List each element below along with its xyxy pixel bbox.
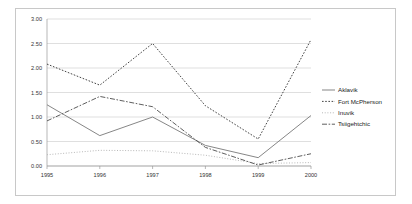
y-axis-tick-label: 1.50 <box>31 90 42 96</box>
y-axis-tick-label: 0.00 <box>31 163 42 169</box>
legend-label-tsiigehtchic: Tsiigehtchic <box>338 120 370 127</box>
line-chart: 0.000.501.001.502.002.503.00199519961997… <box>0 0 412 204</box>
chart-svg: 0.000.501.001.502.002.503.00199519961997… <box>0 0 412 204</box>
x-axis-tick-label: 2000 <box>305 172 317 178</box>
legend-label-aklavik: Aklavik <box>338 86 359 93</box>
x-axis-tick-label: 1995 <box>41 172 53 178</box>
x-axis-tick-label: 1999 <box>252 172 264 178</box>
y-axis-tick-label: 2.50 <box>31 41 42 47</box>
legend-label-inuvik: Inuvik <box>338 109 355 116</box>
x-axis-tick-label: 1998 <box>199 172 211 178</box>
y-axis-tick-label: 1.00 <box>31 114 42 120</box>
series-line-aklavik <box>47 105 311 158</box>
series-line-fort-mcpherson <box>47 40 311 139</box>
series-line-inuvik <box>47 150 311 163</box>
y-axis-tick-label: 0.50 <box>31 139 42 145</box>
x-axis-tick-label: 1996 <box>94 172 106 178</box>
y-axis-tick-label: 2.00 <box>31 65 42 71</box>
legend-label-fort-mcpherson: Fort McPherson <box>338 98 383 105</box>
x-axis-tick-label: 1997 <box>146 172 158 178</box>
y-axis-tick-label: 3.00 <box>31 16 42 22</box>
